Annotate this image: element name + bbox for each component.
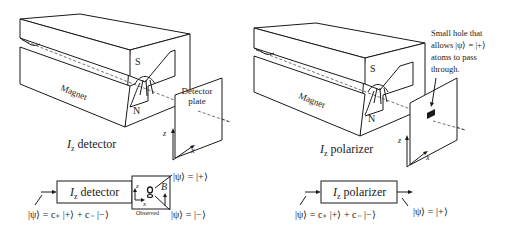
output-plus-state: |ψ⟩ = |+⟩	[173, 171, 208, 182]
right-input-state: |ψ⟩ = c₊ |+⟩ + c₋ |−⟩	[295, 209, 376, 220]
right-axis-x: x	[425, 153, 430, 162]
hole-note-2: allows |ψ⟩ = |+⟩	[431, 40, 486, 50]
right-schematic: Iz polarizer |ψ⟩ = |+⟩ |ψ⟩ = c₊ |+⟩ + c₋…	[295, 181, 448, 220]
left-input-state: |ψ⟩ = c₊ |+⟩ + c₋ |−⟩	[28, 209, 109, 220]
observed-axis-z: z	[135, 182, 139, 190]
iz-polarizer-box-label: Iz polarizer	[332, 185, 386, 201]
hole-note-1: Small hole that	[431, 28, 483, 38]
hole-annotation: Small hole that allows |ψ⟩ = |+⟩ atoms t…	[431, 28, 486, 74]
observed-label: Observed	[136, 210, 159, 216]
left-pole-north: N	[133, 105, 140, 116]
right-output-state: |ψ⟩ = |+⟩	[413, 206, 448, 217]
stern-gerlach-diagram: Magnet S N Detector plate z x Iz detecto…	[0, 0, 508, 236]
right-pole-north: N	[368, 113, 375, 124]
left-axis-z: z	[162, 129, 167, 138]
right-caption: Iz polarizer	[319, 142, 373, 158]
hole-note-3: atoms to pass	[431, 52, 477, 62]
left-apparatus: Magnet S N Detector plate z x Iz detecto…	[20, 14, 230, 160]
left-magnet: Magnet S N	[20, 14, 190, 127]
left-axis-x: x	[190, 146, 195, 155]
left-plate-label-1: Detector	[182, 86, 213, 96]
right-apparatus: Magnet S N z x Small hole that allows |ψ…	[254, 23, 486, 167]
left-plate-label-2: plate	[188, 96, 206, 106]
output-minus-state: |ψ⟩ = |−⟩	[171, 209, 206, 220]
right-magnet: Magnet S N	[254, 23, 425, 136]
right-axis-z: z	[397, 136, 402, 145]
left-schematic: Iz detector z x B Observed |ψ⟩ = |+⟩ |ψ⟩…	[28, 171, 208, 220]
left-pole-south: S	[135, 56, 141, 67]
right-pole-south: S	[370, 63, 376, 74]
left-caption: Iz detector	[66, 137, 116, 153]
hole-note-4: through.	[431, 64, 460, 74]
